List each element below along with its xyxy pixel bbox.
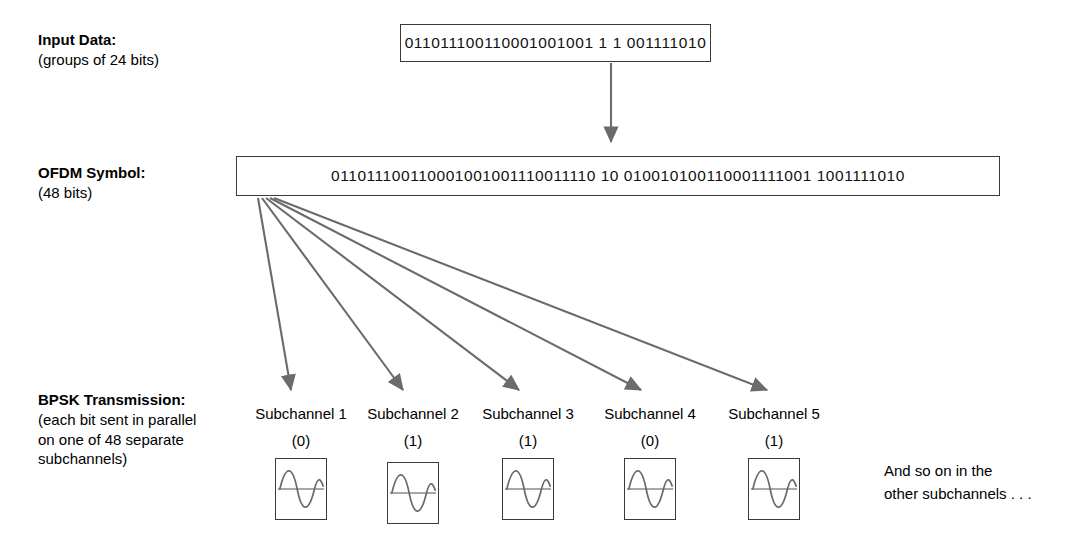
arrow-ofdm-to-subchannel-4 xyxy=(270,198,641,390)
ofdm-symbol-label-block: OFDM Symbol: (48 bits) xyxy=(38,163,146,203)
arrow-ofdm-to-subchannel-3 xyxy=(266,198,519,390)
other-subchannels-note-line-1: And so on in the xyxy=(884,459,1032,482)
subchannel-1-title: Subchannel 1 xyxy=(243,405,359,422)
input-data-label: Input Data: xyxy=(38,30,159,50)
input-data-label-block: Input Data: (groups of 24 bits) xyxy=(38,30,159,70)
subchannel-4-title: Subchannel 4 xyxy=(592,405,708,422)
waveform-icon xyxy=(388,463,438,523)
subchannel-4-bit: (0) xyxy=(592,432,708,449)
subchannel-2-bit: (1) xyxy=(355,432,471,449)
subchannel-2-title: Subchannel 2 xyxy=(355,405,471,422)
waveform-icon xyxy=(749,459,799,519)
subchannel-5-waveform-box xyxy=(748,458,800,520)
subchannel-1-waveform-box xyxy=(275,458,327,520)
subchannel-3-title: Subchannel 3 xyxy=(470,405,586,422)
arrow-ofdm-to-subchannel-1 xyxy=(258,198,291,390)
bpsk-label: BPSK Transmission: xyxy=(38,390,196,410)
input-data-bits: 011011100110001001001 1 1 001111010 xyxy=(405,34,707,52)
ofdm-symbol-label: OFDM Symbol: xyxy=(38,163,146,183)
ofdm-symbol-sublabel: (48 bits) xyxy=(38,183,146,203)
subchannel-4-waveform-box xyxy=(624,458,676,520)
ofdm-symbol-bits-box: 011011100110001001001110011110 10 010010… xyxy=(236,156,1000,196)
subchannel-2-waveform-box xyxy=(387,462,439,524)
other-subchannels-note: And so on in the other subchannels . . . xyxy=(884,459,1032,506)
waveform-icon xyxy=(625,459,675,519)
arrow-ofdm-to-subchannel-2 xyxy=(262,198,403,390)
waveform-icon xyxy=(503,459,553,519)
input-data-bits-box: 011011100110001001001 1 1 001111010 xyxy=(400,24,711,62)
bpsk-sublabel-line-2: on one of 48 separate xyxy=(38,430,196,450)
diagram-canvas: Input Data: (groups of 24 bits) 01101110… xyxy=(0,0,1087,543)
subchannel-1-bit: (0) xyxy=(243,432,359,449)
subchannel-5-title: Subchannel 5 xyxy=(716,405,832,422)
arrow-ofdm-to-subchannel-5 xyxy=(274,198,767,390)
other-subchannels-note-line-2: other subchannels . . . xyxy=(884,482,1032,505)
bpsk-sublabel-line-1: (each bit sent in parallel xyxy=(38,410,196,430)
subchannel-3-waveform-box xyxy=(502,458,554,520)
bpsk-label-block: BPSK Transmission: (each bit sent in par… xyxy=(38,390,196,469)
bpsk-sublabel-line-3: subchannels) xyxy=(38,449,196,469)
ofdm-symbol-bits: 011011100110001001001110011110 10 010010… xyxy=(331,167,905,185)
subchannel-3-bit: (1) xyxy=(470,432,586,449)
subchannel-5-bit: (1) xyxy=(716,432,832,449)
waveform-icon xyxy=(276,459,326,519)
input-data-sublabel: (groups of 24 bits) xyxy=(38,50,159,70)
